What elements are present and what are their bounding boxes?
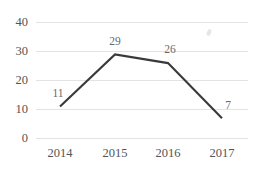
x-tick-label-2014: 2014 bbox=[48, 147, 73, 160]
data-series-line bbox=[60, 54, 222, 118]
x-tick-label-2016: 2016 bbox=[156, 147, 181, 160]
y-tick-label-0: 0 bbox=[22, 132, 28, 145]
x-tick-label-2015: 2015 bbox=[103, 147, 128, 160]
y-tick-label-20: 20 bbox=[16, 74, 29, 87]
y-tick-label-40: 40 bbox=[16, 16, 29, 29]
y-tick-label-30: 30 bbox=[16, 45, 29, 58]
data-point-label-2015: 29 bbox=[109, 36, 121, 48]
data-point-label-2014: 11 bbox=[52, 88, 63, 100]
gridlines bbox=[36, 23, 248, 139]
line-chart: 40 30 20 10 0 2014 2015 2016 2017 11 29 … bbox=[0, 0, 262, 173]
x-tick-label-2017: 2017 bbox=[210, 147, 235, 160]
y-tick-label-10: 10 bbox=[16, 103, 29, 116]
data-point-label-2017: 7 bbox=[225, 100, 231, 112]
data-point-label-2016: 26 bbox=[164, 44, 176, 56]
